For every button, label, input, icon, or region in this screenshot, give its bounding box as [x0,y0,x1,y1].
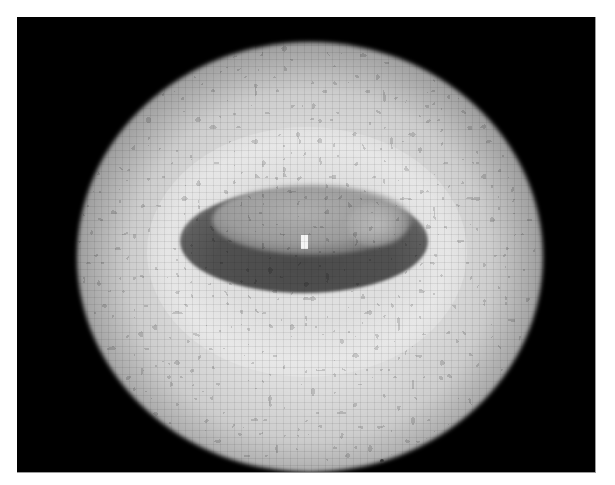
inner-right-lobe [347,202,407,247]
image-panel [17,17,596,473]
bright-spot [301,235,308,249]
figure [0,0,615,485]
speck [380,459,384,463]
